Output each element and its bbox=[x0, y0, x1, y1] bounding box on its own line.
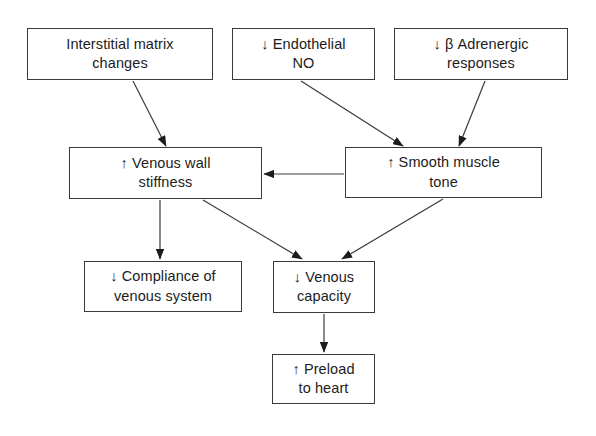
node-venous-capacity: ↓ Venous capacity bbox=[273, 261, 375, 313]
node-interstitial-matrix-changes: Interstitial matrix changes bbox=[27, 28, 213, 80]
edge-no-to-tone bbox=[301, 81, 403, 146]
node-preload-to-heart: ↑ Preload to heart bbox=[272, 354, 375, 404]
edge-tone-to-capacity bbox=[342, 199, 443, 259]
edge-matrix-to-stiffness bbox=[133, 81, 166, 146]
node-endothelial-no: ↓ Endothelial NO bbox=[232, 28, 375, 80]
edge-stiffness-to-capacity bbox=[203, 200, 302, 259]
node-smooth-muscle-tone: ↑ Smooth muscle tone bbox=[345, 147, 542, 198]
edge-beta-to-tone bbox=[459, 81, 485, 146]
node-venous-wall-stiffness: ↑ Venous wall stiffness bbox=[69, 147, 262, 199]
node-beta-adrenergic-responses: ↓ β Adrenergic responses bbox=[394, 28, 568, 80]
node-compliance-of-venous-system: ↓ Compliance of venous system bbox=[84, 261, 242, 312]
flow-diagram: Interstitial matrix changes↓ Endothelial… bbox=[0, 0, 596, 436]
